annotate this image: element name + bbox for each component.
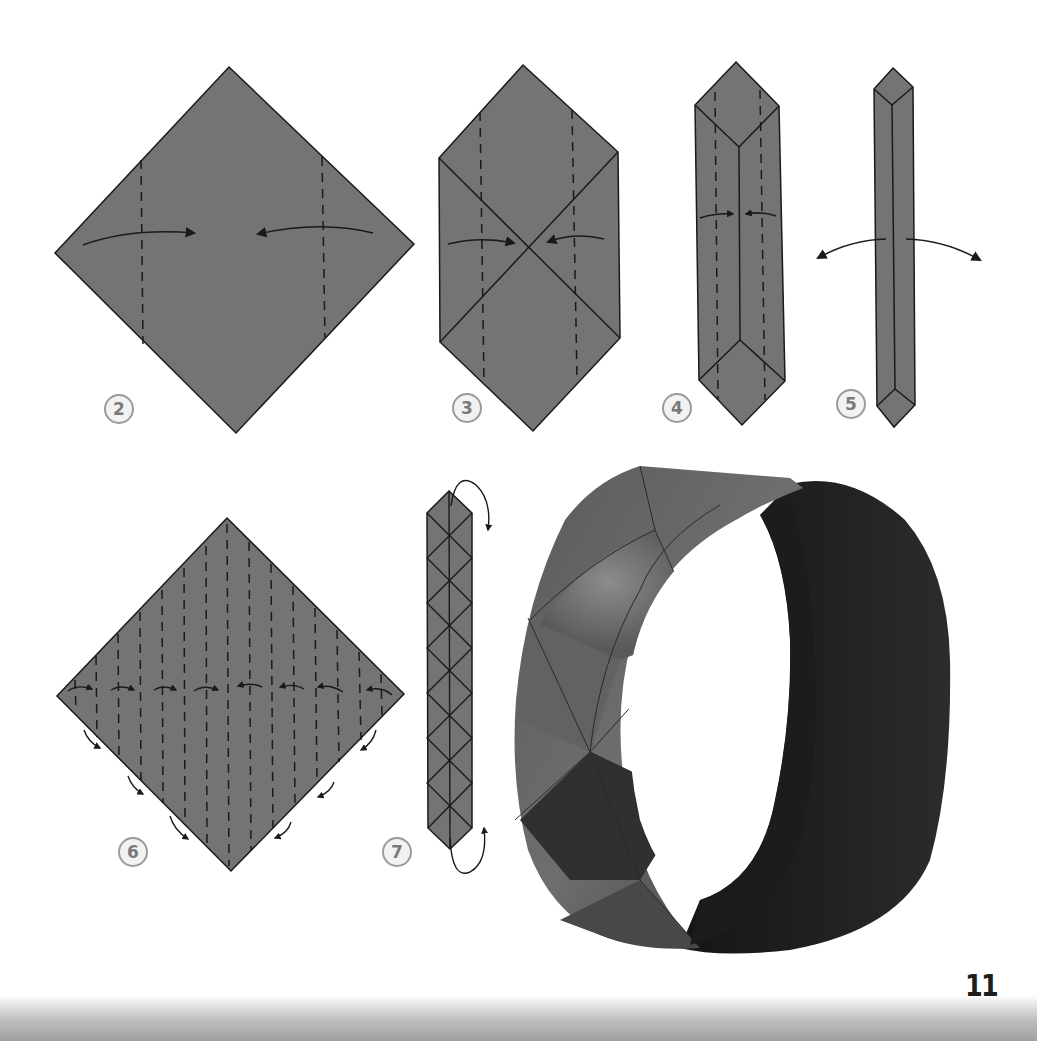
step-6-diagram: 6 <box>57 518 404 871</box>
step-number: 4 <box>671 398 683 418</box>
step-5-diagram: 5 <box>818 68 980 427</box>
step-number-badge: 2 <box>105 395 133 423</box>
step-number-badge: 6 <box>119 838 147 866</box>
step-number-badge: 4 <box>663 394 691 422</box>
unfold-arrow-icon <box>906 239 980 260</box>
diagram-canvas: 2 3 4 <box>0 0 1037 1041</box>
page-number: 11 <box>965 968 997 1003</box>
step-number: 3 <box>461 398 473 418</box>
step-number-badge: 3 <box>453 394 481 422</box>
instruction-page: 2 3 4 <box>0 0 1037 1041</box>
step-number-badge: 7 <box>383 838 411 866</box>
step-number: 6 <box>127 842 139 862</box>
step-4-diagram: 4 <box>663 62 785 425</box>
step-number: 7 <box>391 842 403 862</box>
finished-bracelet-photo <box>515 466 951 954</box>
step-3-diagram: 3 <box>439 65 620 431</box>
step-number-badge: 5 <box>837 390 865 418</box>
step-2-diagram: 2 <box>55 67 414 433</box>
paper-square <box>55 67 414 433</box>
page-bottom-shadow <box>0 995 1037 1041</box>
paper-square <box>57 518 404 871</box>
step-number: 5 <box>845 394 857 414</box>
center-line <box>739 147 740 340</box>
step-7-diagram: 7 <box>383 481 489 874</box>
step-number: 2 <box>113 399 125 419</box>
